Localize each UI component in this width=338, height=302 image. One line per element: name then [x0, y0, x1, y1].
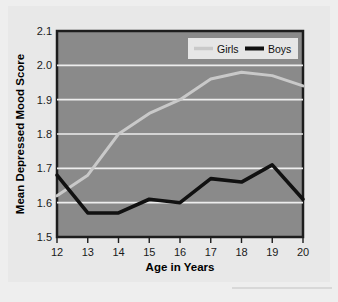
scan-artifact-line: [232, 287, 332, 289]
y-axis-title: Mean Depressed Mood Score: [14, 54, 26, 214]
x-axis-tick-labels: 121314151617181920: [51, 246, 309, 258]
legend-label-girls: Girls: [217, 43, 239, 55]
x-axis-tick-label: 16: [174, 246, 186, 258]
x-axis-tick-label: 18: [235, 246, 247, 258]
x-axis-tick-label: 17: [205, 246, 217, 258]
y-axis-tick-label: 1.5: [37, 231, 52, 243]
y-axis-tick-label: 1.7: [37, 162, 52, 174]
x-axis-title: Age in Years: [146, 261, 215, 273]
y-axis-tick-label: 2.0: [37, 59, 52, 71]
x-axis-tick-label: 12: [51, 246, 63, 258]
x-axis-tick-label: 19: [266, 246, 278, 258]
y-axis-tick-label: 1.9: [37, 94, 52, 106]
y-axis-tick-label: 2.1: [37, 25, 52, 37]
y-axis-tick-label: 1.8: [37, 128, 52, 140]
legend-label-boys: Boys: [268, 43, 291, 55]
mood-score-line-chart: 1.51.61.71.81.92.02.1 121314151617181920…: [0, 0, 338, 302]
x-axis-tick-label: 15: [143, 246, 155, 258]
x-axis-tick-label: 14: [112, 246, 124, 258]
y-axis-tick-labels: 1.51.61.71.81.92.02.1: [37, 25, 52, 243]
x-axis-tick-label: 20: [297, 246, 309, 258]
chart-legend: Girls Boys: [188, 38, 298, 59]
figure-container: 1.51.61.71.81.92.02.1 121314151617181920…: [0, 0, 338, 302]
y-axis-tick-label: 1.6: [37, 197, 52, 209]
x-axis-tick-label: 13: [82, 246, 94, 258]
